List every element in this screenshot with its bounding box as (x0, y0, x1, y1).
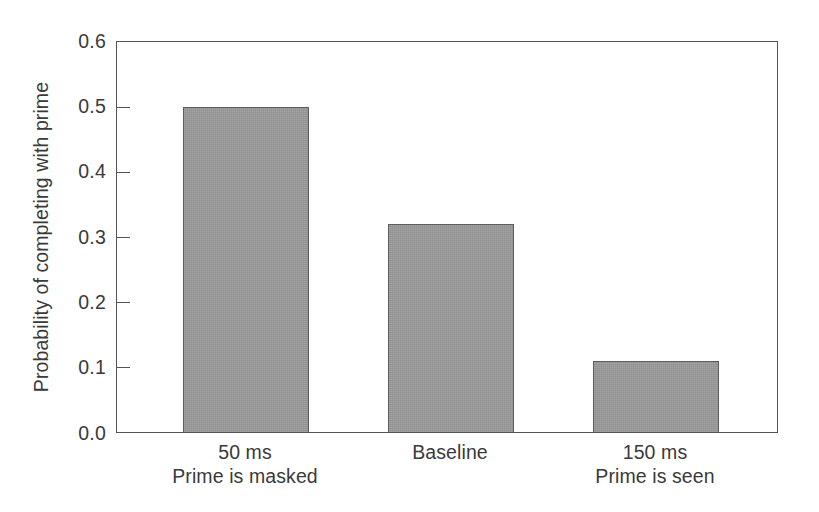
plot-area (116, 41, 778, 433)
bar-chart-figure: Probability of completing with prime 0.6… (0, 0, 819, 512)
y-tick-label-0.3: 0.3 (0, 228, 106, 248)
y-tick-mark-0.1 (117, 367, 130, 368)
y-tick-label-0.2: 0.2 (0, 293, 106, 313)
x-category-label-50ms: 50 ms Prime is masked (172, 440, 318, 488)
x-category-label-baseline-line1: Baseline (412, 441, 488, 463)
y-tick-label-0.0: 0.0 (0, 424, 106, 444)
x-category-sublabel-50ms: Prime is masked (172, 464, 318, 488)
bar-50ms (183, 107, 309, 432)
x-category-sublabel-150ms: Prime is seen (595, 464, 714, 488)
x-category-label-50ms-line1: 50 ms (218, 441, 272, 463)
y-tick-label-0.1: 0.1 (0, 358, 106, 378)
x-category-label-150ms: 150 ms Prime is seen (595, 440, 714, 488)
y-tick-mark-0.2 (117, 302, 130, 303)
y-tick-label-0.6: 0.6 (0, 32, 106, 52)
y-tick-mark-0.4 (117, 172, 130, 173)
y-tick-label-0.4: 0.4 (0, 162, 106, 182)
y-tick-mark-0.3 (117, 237, 130, 238)
x-category-label-150ms-line1: 150 ms (623, 441, 688, 463)
bar-baseline (388, 224, 514, 432)
bar-150ms (593, 361, 719, 433)
y-tick-mark-0.5 (117, 107, 130, 108)
y-tick-label-0.5: 0.5 (0, 97, 106, 117)
x-category-label-baseline: Baseline (412, 440, 488, 464)
